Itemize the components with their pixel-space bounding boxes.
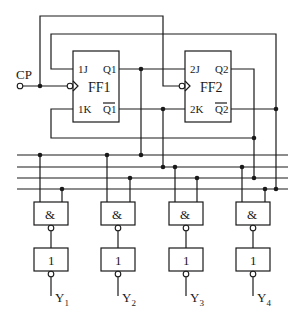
inverter-2-symbol: 1	[115, 253, 122, 268]
ff2-qbar-label: Q2	[215, 103, 228, 115]
nand-gate-4-symbol: &	[247, 207, 257, 222]
ff2-q-label: Q2	[215, 63, 228, 75]
ff2-k-label: 2K	[190, 103, 204, 115]
ff2-clock-bubble	[179, 83, 185, 89]
inverter-3-symbol: 1	[183, 253, 190, 268]
circuit-diagram: CP 1J 1K Q1 Q1 FF1 2J 2K Q2 Q2 FF2	[0, 0, 299, 323]
output-y3-label: Y3	[190, 290, 204, 308]
nand-gate-1-symbol: &	[45, 207, 55, 222]
decoder-channel-3: & 1 Y3	[169, 165, 204, 308]
nand-gate-3-symbol: &	[180, 207, 190, 222]
output-y1-label: Y1	[55, 290, 69, 308]
decoder-channel-2: & 1 Y2	[101, 153, 136, 308]
ff1-qbar-label: Q1	[103, 103, 116, 115]
ff2-name: FF2	[200, 80, 223, 95]
ff1-j-label: 1J	[78, 63, 89, 75]
clock-label: CP	[16, 67, 32, 82]
ff1-k-label: 1K	[78, 103, 92, 115]
ff1-q-label: Q1	[103, 63, 116, 75]
inverter-4-symbol: 1	[250, 253, 257, 268]
output-y2-label: Y2	[122, 290, 136, 308]
bus-lines	[17, 153, 288, 192]
clock-terminal	[17, 83, 23, 89]
flip-flop-ff2: 2J 2K Q2 Q2 FF2	[179, 51, 231, 122]
wire-q2-vertical	[231, 69, 254, 178]
ff2-j-label: 2J	[190, 63, 201, 75]
flip-flop-ff1: 1J 1K Q1 Q1 FF1	[67, 51, 119, 122]
decoder-channel-4: & 1 Y4	[236, 165, 271, 308]
ff1-clock-bubble	[67, 83, 73, 89]
ff1-name: FF1	[88, 80, 111, 95]
decoder-channel-1: & 1 Y1	[34, 153, 69, 308]
output-y4-label: Y4	[257, 290, 271, 308]
nand-gate-2-symbol: &	[112, 207, 122, 222]
inverter-1-symbol: 1	[48, 253, 55, 268]
